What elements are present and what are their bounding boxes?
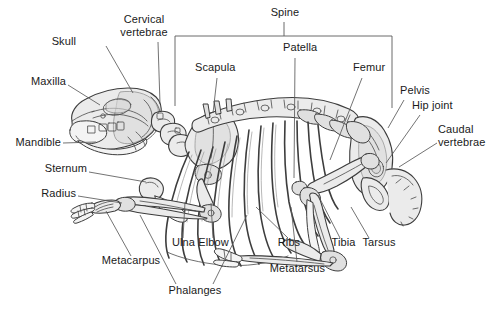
label-metatarsus: Metatarsus	[262, 262, 333, 275]
label-hip-joint: Hip joint	[412, 99, 482, 112]
label-metacarpus: Metacarpus	[93, 254, 169, 267]
label-femur: Femur	[353, 61, 413, 74]
label-ribs: Ribs	[276, 236, 302, 249]
caudal-vertebrae-tail	[386, 169, 422, 226]
label-sternum: Sternum	[25, 162, 87, 175]
label-pelvis: Pelvis	[400, 84, 460, 97]
label-phalanges: Phalanges	[163, 284, 227, 297]
label-patella: Patella	[283, 41, 343, 54]
label-maxilla: Maxilla	[6, 75, 66, 88]
label-scapula: Scapula	[195, 61, 255, 74]
skeleton-diagram-figure: .bone{fill:#ebebeb;stroke:#3d3d3d;stroke…	[0, 0, 503, 310]
label-elbow: Elbow	[196, 236, 231, 249]
label-cervical-vertebrae-line1: Cervical	[108, 13, 180, 26]
label-cervical-vertebrae-line2: vertebrae	[108, 26, 180, 39]
label-ulna: Ulna	[168, 236, 199, 249]
skull-bone	[70, 88, 162, 155]
label-tarsus: Tarsus	[358, 236, 400, 249]
label-skull: Skull	[14, 35, 76, 48]
label-mandible: Mandible	[0, 136, 61, 149]
label-radius: Radius	[25, 187, 76, 200]
label-tibia: Tibia	[329, 236, 358, 249]
label-spine: Spine	[254, 6, 316, 19]
label-caudal-vertebrae-line1: Caudal	[438, 123, 502, 136]
label-caudal-vertebrae-line2: vertebrae	[438, 136, 502, 149]
